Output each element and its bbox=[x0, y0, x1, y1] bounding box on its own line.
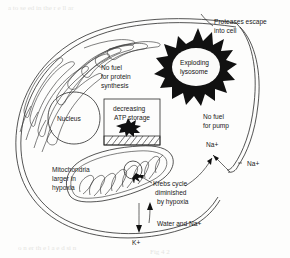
potassium-label: K+ bbox=[132, 239, 140, 246]
figure-canvas: a to se ed in the r e ll ar o n er th e … bbox=[0, 0, 290, 258]
lysosome-line-2: lysosome bbox=[180, 68, 208, 76]
water-sodium-label: Water and Na+ bbox=[157, 220, 201, 227]
mitochondria-line-3: hypoxia bbox=[52, 184, 75, 192]
mitochondria-line-1: Mitochondria bbox=[52, 166, 90, 173]
cell-diagram: a to se ed in the r e ll ar o n er th e … bbox=[0, 0, 290, 258]
transport-arrows bbox=[136, 202, 153, 233]
krebs-line-3: by hypoxia bbox=[157, 198, 189, 206]
proteases-line-1: Proteases escape bbox=[214, 18, 267, 26]
endoplasmic-reticulum bbox=[20, 40, 160, 152]
protein-synthesis-line-3: synthesis bbox=[101, 82, 129, 90]
pump-line-2: for pump bbox=[203, 122, 229, 130]
protein-synthesis-line-2: for protein bbox=[101, 73, 131, 81]
lysosome-line-1: Exploding bbox=[180, 59, 209, 67]
krebs-line-2: diminished bbox=[155, 189, 187, 196]
mitochondria-label: Mitochondria larger in hypoxia bbox=[52, 166, 90, 192]
protein-synthesis-line-1: No fuel bbox=[101, 64, 122, 71]
svg-text:Fig 4 2: Fig 4 2 bbox=[150, 248, 170, 256]
pump-line-1: No fuel bbox=[203, 113, 224, 120]
mitochondria-line-2: larger in bbox=[52, 175, 76, 183]
krebs-label: Krebs cycle diminished by hypoxia bbox=[138, 175, 189, 206]
pump-label: No fuel for pump bbox=[203, 113, 229, 130]
svg-text:a to se ed in the r e: a to se ed in the r e ll ar bbox=[8, 4, 74, 12]
sodium-outer-label: Na+ bbox=[247, 160, 259, 167]
sodium-influx-arrows bbox=[185, 155, 242, 186]
lysosome bbox=[154, 28, 237, 106]
svg-text:o n er th e l a e d s: o n er th e l a e d si n bbox=[18, 244, 77, 252]
protein-synthesis-label: No fuel for protein synthesis bbox=[101, 64, 131, 90]
atp-box-line-2: ATP storage bbox=[114, 114, 150, 122]
krebs-line-1: Krebs cycle bbox=[153, 180, 187, 188]
proteases-line-2: into cell bbox=[214, 27, 237, 34]
proteases-label: Proteases escape into cell bbox=[201, 14, 267, 34]
nucleus-label: Nucleus bbox=[57, 115, 82, 122]
atp-box-line-1: decreasing bbox=[113, 105, 146, 113]
sodium-inner-label: Na+ bbox=[206, 141, 218, 148]
